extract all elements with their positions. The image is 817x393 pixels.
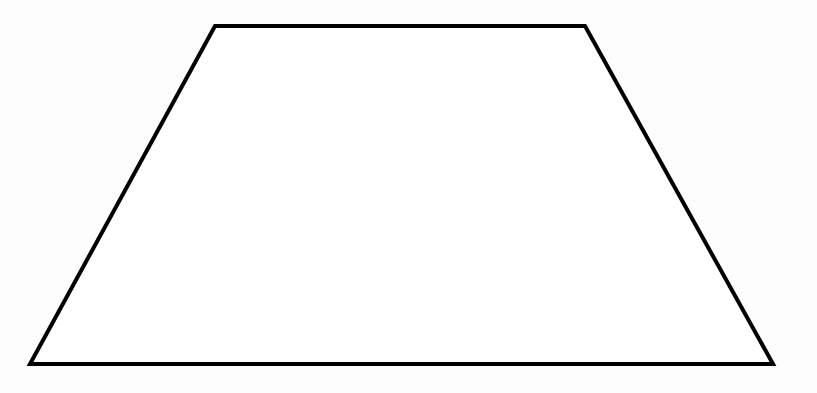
trapezoid-shape[interactable] [30, 26, 773, 364]
vertex-bottom-left [27, 361, 33, 367]
geometric-figure-canvas [0, 0, 817, 393]
vertex-bottom-right [770, 361, 776, 367]
vertex-top-left [212, 23, 218, 29]
figure-svg [0, 0, 817, 393]
vertex-top-right [582, 23, 588, 29]
